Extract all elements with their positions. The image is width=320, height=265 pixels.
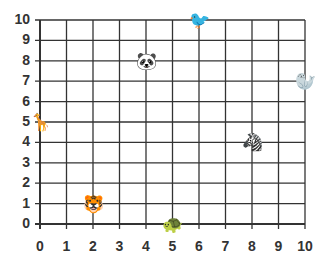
x-tick-label: 0 (30, 238, 50, 254)
y-tick-label: 3 (4, 154, 30, 170)
y-tick-label: 6 (4, 93, 30, 109)
x-tick-label: 2 (83, 238, 103, 254)
x-tick-label: 3 (110, 238, 130, 254)
y-tick-label: 2 (4, 174, 30, 190)
zebra-icon: 🦓 (242, 134, 263, 151)
y-tick-label: 9 (4, 31, 30, 47)
x-tick-label: 1 (57, 238, 77, 254)
x-tick-label: 8 (242, 238, 262, 254)
y-tick-label: 7 (4, 72, 30, 88)
giraffe-icon: 🦒 (30, 114, 51, 131)
turtle-icon: 🐢 (162, 216, 183, 233)
x-tick-label: 5 (163, 238, 183, 254)
coordinate-grid (0, 0, 320, 265)
y-tick-label: 8 (4, 52, 30, 68)
x-tick-label: 6 (189, 238, 209, 254)
tiger-icon: 🐯 (83, 195, 104, 212)
y-tick-label: 10 (4, 11, 30, 27)
x-tick-label: 4 (136, 238, 156, 254)
bird-icon: 🐦 (189, 12, 210, 29)
y-tick-label: 1 (4, 195, 30, 211)
x-tick-label: 9 (269, 238, 289, 254)
y-tick-label: 0 (4, 215, 30, 231)
x-tick-label: 7 (216, 238, 236, 254)
x-tick-label: 10 (295, 238, 315, 254)
y-tick-label: 5 (4, 113, 30, 129)
y-tick-label: 4 (4, 133, 30, 149)
seal-icon: 🦭 (295, 73, 316, 90)
panda-icon: 🐼 (136, 52, 157, 69)
